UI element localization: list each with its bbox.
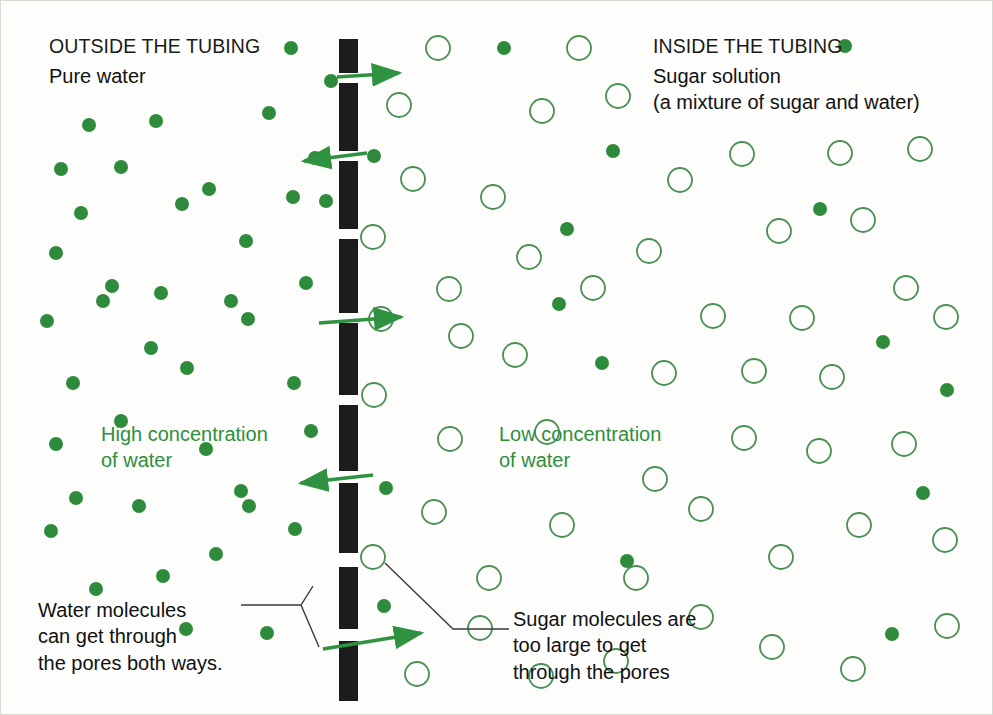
membrane-segment xyxy=(339,239,358,313)
membrane-segment xyxy=(339,483,358,553)
water-molecule xyxy=(299,276,313,290)
sugar-molecule xyxy=(624,566,648,590)
sugar-molecule xyxy=(934,305,958,329)
sugar-molecule xyxy=(652,361,676,385)
water-molecule xyxy=(209,547,223,561)
sugar-molecule xyxy=(828,141,852,165)
water-molecule xyxy=(105,279,119,293)
water-molecule xyxy=(367,149,381,163)
sugar-molecule xyxy=(477,566,501,590)
sugar-molecule xyxy=(933,528,957,552)
water-molecule xyxy=(497,41,511,55)
leader-line-water xyxy=(301,605,319,647)
water-molecule xyxy=(242,499,256,513)
water-molecule xyxy=(552,297,566,311)
water-molecule xyxy=(319,194,333,208)
sugar-molecule xyxy=(361,225,385,249)
outside-tubing-heading: OUTSIDE THE TUBING xyxy=(49,34,260,59)
water-molecule-layer xyxy=(40,39,954,641)
water-molecule xyxy=(620,554,634,568)
sugar-molecule xyxy=(517,245,541,269)
inside-tubing-heading: INSIDE THE TUBING xyxy=(653,34,843,59)
low-concentration-label: Low concentration of water xyxy=(499,421,661,473)
water-molecule xyxy=(304,424,318,438)
water-molecule xyxy=(44,524,58,538)
water-molecule xyxy=(606,144,620,158)
sugar-molecule xyxy=(820,365,844,389)
water-molecule xyxy=(202,182,216,196)
sugar-molecule xyxy=(742,359,766,383)
membrane-segment xyxy=(339,323,358,395)
water-molecule xyxy=(813,202,827,216)
sugar-molecule xyxy=(668,168,692,192)
water-molecule xyxy=(114,160,128,174)
water-molecule xyxy=(69,491,83,505)
water-molecule xyxy=(180,361,194,375)
sugar-molecule xyxy=(769,545,793,569)
water-molecule xyxy=(324,74,338,88)
arrow-layer xyxy=(301,73,421,649)
sugar-molecule xyxy=(422,500,446,524)
outside-tubing-subtitle: Pure water xyxy=(49,64,146,90)
water-molecule xyxy=(940,383,954,397)
water-molecule xyxy=(379,481,393,495)
sugar-molecule xyxy=(701,304,725,328)
water-molecule xyxy=(260,626,274,640)
sugar-molecule xyxy=(606,84,630,108)
sugar-molecule xyxy=(437,277,461,301)
water-molecule xyxy=(239,234,253,248)
water-molecule xyxy=(288,522,302,536)
water-molecule xyxy=(595,356,609,370)
membrane-segment xyxy=(339,83,358,151)
water-molecule xyxy=(885,627,899,641)
water-molecule xyxy=(96,294,110,308)
sugar-molecule xyxy=(401,167,425,191)
sugar-molecule xyxy=(732,426,756,450)
membrane-segment xyxy=(339,567,358,629)
water-molecule xyxy=(234,484,248,498)
sugar-molecule xyxy=(387,93,411,117)
water-molecule xyxy=(224,294,238,308)
sugar-molecule xyxy=(908,137,932,161)
sugar-molecule xyxy=(935,614,959,638)
water-molecule xyxy=(89,582,103,596)
flow-arrow-right xyxy=(319,317,401,323)
flow-arrow-left xyxy=(301,475,373,483)
sugar-molecule xyxy=(438,427,462,451)
high-concentration-label: High concentration of water xyxy=(101,421,268,473)
sugar-molecule xyxy=(405,662,429,686)
sugar-molecule xyxy=(550,513,574,537)
sugar-molecule xyxy=(530,99,554,123)
inside-tubing-subtitle: Sugar solution (a mixture of sugar and w… xyxy=(653,64,920,115)
sugar-molecule xyxy=(468,616,492,640)
sugar-molecules-caption: Sugar molecules are too large to get thr… xyxy=(513,606,696,685)
membrane-segment xyxy=(339,161,358,229)
sugar-molecule xyxy=(894,276,918,300)
water-molecule xyxy=(66,376,80,390)
water-molecule xyxy=(74,206,88,220)
sugar-molecule xyxy=(892,432,916,456)
water-molecule xyxy=(154,286,168,300)
sugar-molecule xyxy=(760,635,784,659)
sugar-molecule-layer xyxy=(361,36,959,688)
water-molecule xyxy=(286,190,300,204)
membrane-segment xyxy=(339,641,358,701)
water-molecule xyxy=(916,486,930,500)
sugar-molecule xyxy=(841,657,865,681)
sugar-molecule xyxy=(689,497,713,521)
leader-line-water xyxy=(241,586,313,605)
sugar-molecule xyxy=(361,545,385,569)
sugar-molecule xyxy=(851,208,875,232)
water-molecule xyxy=(262,106,276,120)
sugar-molecule xyxy=(730,142,754,166)
sugar-molecule xyxy=(362,383,386,407)
sugar-molecule xyxy=(481,185,505,209)
water-molecule xyxy=(876,335,890,349)
sugar-molecule xyxy=(426,36,450,60)
sugar-molecule xyxy=(790,306,814,330)
water-molecule xyxy=(175,197,189,211)
osmosis-diagram: OUTSIDE THE TUBING Pure water INSIDE THE… xyxy=(0,0,993,715)
water-molecule xyxy=(144,341,158,355)
membrane-segment xyxy=(339,405,358,471)
water-molecule xyxy=(132,499,146,513)
